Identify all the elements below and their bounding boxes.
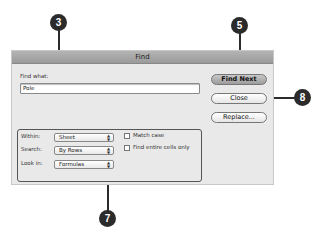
updown-arrows-icon: ▲▼ xyxy=(105,147,112,154)
entire-cells-checkbox[interactable] xyxy=(124,145,130,151)
close-button[interactable]: Close xyxy=(211,93,267,104)
callout-5: 5 xyxy=(231,17,248,34)
entire-cells-label: Find entire cells only xyxy=(133,144,190,150)
within-label: Within: xyxy=(21,133,40,139)
search-value: By Rows xyxy=(59,147,82,153)
find-next-button[interactable]: Find Next xyxy=(211,74,267,85)
look-in-value: Formulas xyxy=(59,161,84,167)
callout-7-line xyxy=(107,181,109,211)
dialog-title: Find xyxy=(12,51,273,64)
find-what-label: Find what: xyxy=(20,73,48,79)
within-select[interactable]: Sheet ▲▼ xyxy=(54,133,114,142)
updown-arrows-icon: ▲▼ xyxy=(105,161,112,168)
replace-button[interactable]: Replace... xyxy=(211,112,267,123)
look-in-select[interactable]: Formulas ▲▼ xyxy=(54,160,114,169)
callout-7: 7 xyxy=(99,210,116,227)
within-value: Sheet xyxy=(59,134,75,140)
search-label: Search: xyxy=(21,146,42,152)
search-select[interactable]: By Rows ▲▼ xyxy=(54,146,114,155)
callout-3: 3 xyxy=(50,14,67,31)
search-options-group: Within: Sheet ▲▼ Search: By Rows ▲▼ Look… xyxy=(17,129,202,182)
match-case-checkbox[interactable] xyxy=(124,133,130,139)
updown-arrows-icon: ▲▼ xyxy=(105,134,112,141)
find-dialog: Find Find what: Pole Find Next Close Rep… xyxy=(11,50,274,185)
find-what-input[interactable]: Pole xyxy=(20,83,200,94)
look-in-label: Look in: xyxy=(21,160,43,166)
callout-8: 8 xyxy=(294,89,311,106)
match-case-label: Match case xyxy=(133,132,164,138)
